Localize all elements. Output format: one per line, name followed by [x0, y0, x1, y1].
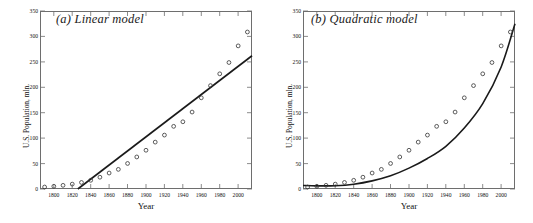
y-tick-label: 350: [286, 8, 301, 14]
x-tick-label: 1920: [422, 192, 433, 198]
panel-linear-model: (a) Linear model U.S. Population, mln. Y…: [0, 0, 266, 223]
x-tick-label: 1860: [367, 192, 378, 198]
y-tick-label: 300: [286, 33, 301, 39]
x-tick-label: 1980: [477, 192, 488, 198]
y-tick-label: 100: [23, 135, 38, 141]
plot-area-b: [303, 11, 515, 189]
x-tick-label: 2000: [233, 192, 244, 198]
y-tick-label: 100: [286, 135, 301, 141]
y-tick-label: 200: [286, 84, 301, 90]
y-tick-label: 300: [23, 33, 38, 39]
y-tick-label: 50: [23, 161, 38, 167]
x-tick-label: 1840: [85, 192, 96, 198]
y-tick-label: 250: [286, 59, 301, 65]
y-tick-label: 250: [23, 59, 38, 65]
panel-b-title: (b) Quadratic model: [311, 12, 418, 27]
y-tick-label: 200: [23, 84, 38, 90]
plot-area-a: [40, 11, 252, 189]
x-tick-label: 1900: [140, 192, 151, 198]
x-tick-label: 1820: [67, 192, 78, 198]
x-tick-label: 1940: [177, 192, 188, 198]
x-tick-label: 1820: [330, 192, 341, 198]
x-tick-label: 1840: [348, 192, 359, 198]
y-tick-label: 0: [286, 186, 301, 192]
x-tick-label: 1980: [214, 192, 225, 198]
x-tick-label: 1880: [385, 192, 396, 198]
x-tick-label: 1860: [104, 192, 115, 198]
x-tick-label: 2000: [496, 192, 507, 198]
figure-container: (a) Linear model U.S. Population, mln. Y…: [0, 0, 533, 223]
x-tick-label: 1940: [440, 192, 451, 198]
y-tick-label: 150: [286, 110, 301, 116]
y-tick-label: 50: [286, 161, 301, 167]
x-tick-label: 1920: [159, 192, 170, 198]
x-tick-label: 1900: [403, 192, 414, 198]
y-tick-label: 0: [23, 186, 38, 192]
panel-quadratic-model: (b) Quadratic model U.S. Population, mln…: [267, 0, 533, 223]
panel-a-xlabel: Year: [40, 201, 252, 211]
x-tick-label: 1800: [48, 192, 59, 198]
x-tick-label: 1960: [459, 192, 470, 198]
x-tick-label: 1960: [196, 192, 207, 198]
x-tick-label: 1800: [311, 192, 322, 198]
panel-b-xlabel: Year: [303, 201, 515, 211]
panel-a-title: (a) Linear model: [56, 12, 144, 27]
x-tick-label: 1880: [122, 192, 133, 198]
y-tick-label: 150: [23, 110, 38, 116]
y-tick-label: 350: [23, 8, 38, 14]
